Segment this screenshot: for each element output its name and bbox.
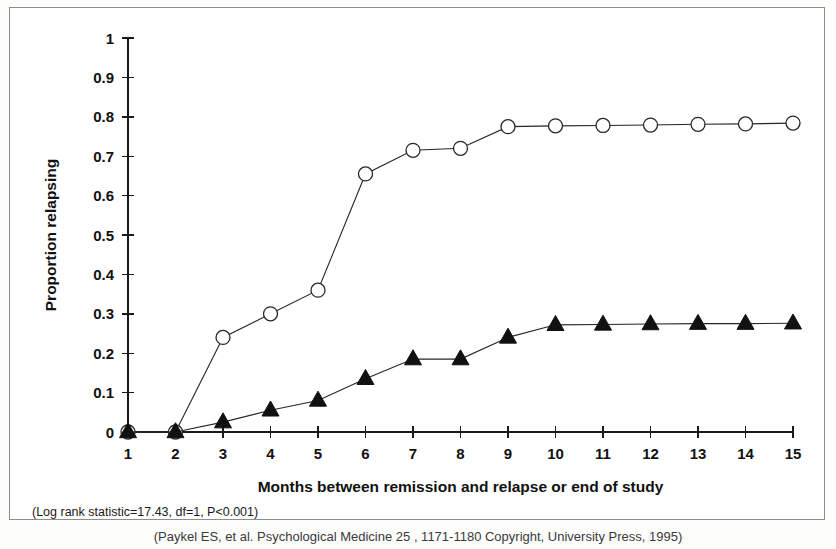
log-rank-annotation: (Log rank statistic=17.43, df=1, P<0.001…: [32, 505, 258, 519]
data-point-open-circle: [454, 141, 468, 155]
data-point-open-circle: [311, 283, 325, 297]
data-point-open-circle: [691, 117, 705, 131]
data-point-filled-triangle: [547, 316, 564, 331]
data-point-open-circle: [501, 120, 515, 134]
figure-frame: 00.10.20.30.40.50.60.70.80.91 1234567891…: [9, 7, 825, 520]
data-point-filled-triangle: [595, 315, 612, 330]
data-point-filled-triangle: [785, 314, 802, 329]
y-tick-label: 0.7: [93, 148, 114, 165]
x-axis-title: Months between remission and relapse or …: [258, 478, 664, 495]
x-tick-label: 8: [456, 445, 464, 462]
survival-chart: 00.10.20.30.40.50.60.70.80.91 1234567891…: [10, 8, 826, 521]
data-point-filled-triangle: [310, 391, 327, 406]
data-point-filled-triangle: [405, 350, 422, 365]
y-tick-label: 0.1: [93, 384, 114, 401]
y-tick-label: 0.9: [93, 69, 114, 86]
data-point-filled-triangle: [737, 314, 754, 329]
x-tick-label: 3: [219, 445, 227, 462]
data-series: [121, 116, 800, 439]
x-tick-label: 2: [171, 445, 179, 462]
y-tick-label: 0.4: [93, 266, 115, 283]
data-point-filled-triangle: [262, 401, 279, 416]
x-tick-label: 10: [547, 445, 564, 462]
x-tick-label: 5: [314, 445, 322, 462]
x-tick-label: 14: [737, 445, 754, 462]
y-tick-label: 0.3: [93, 305, 114, 322]
data-point-open-circle: [644, 118, 658, 132]
y-tick-label: 0.6: [93, 187, 114, 204]
data-point-filled-triangle: [690, 314, 707, 329]
y-tick-label: 0.8: [93, 108, 114, 125]
data-point-open-circle: [216, 330, 230, 344]
x-tick-label: 1: [124, 445, 132, 462]
series-line: [128, 123, 793, 432]
y-tick-label: 1: [106, 30, 114, 47]
x-tick-label: 11: [595, 445, 611, 462]
y-tick-label: 0: [106, 424, 114, 441]
data-point-open-circle: [739, 117, 753, 131]
y-tick-label: 0.2: [93, 345, 114, 362]
figure-root: 00.10.20.30.40.50.60.70.80.91 1234567891…: [0, 0, 836, 549]
data-series-group: [120, 116, 802, 439]
x-tick-label: 13: [690, 445, 707, 462]
x-tick-label: 12: [642, 445, 659, 462]
data-point-filled-triangle: [642, 315, 659, 330]
data-point-open-circle: [406, 143, 420, 157]
x-tick-label: 9: [504, 445, 512, 462]
data-point-filled-triangle: [452, 350, 469, 365]
data-point-open-circle: [596, 118, 610, 132]
data-point-open-circle: [549, 119, 563, 133]
x-tick-label: 15: [785, 445, 802, 462]
data-point-filled-triangle: [357, 370, 374, 385]
y-tick-label: 0.5: [93, 227, 114, 244]
data-point-open-circle: [264, 307, 278, 321]
y-axis-title: Proportion relapsing: [42, 159, 59, 311]
data-point-open-circle: [359, 167, 373, 181]
data-point-open-circle: [786, 116, 800, 130]
x-tick-label: 7: [409, 445, 417, 462]
figure-caption: (Paykel ES, et al. Psychological Medicin…: [0, 524, 836, 549]
x-tick-label: 4: [266, 445, 275, 462]
chart-svg: 00.10.20.30.40.50.60.70.80.91 1234567891…: [10, 8, 826, 521]
x-tick-label: 6: [361, 445, 369, 462]
